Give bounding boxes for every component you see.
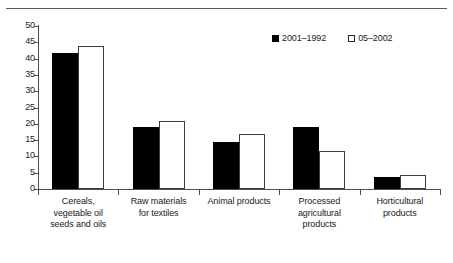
y-axis-tick-label: 50	[25, 20, 35, 31]
x-axis-tick-mark	[199, 190, 200, 195]
category-label-line: products	[354, 208, 446, 220]
category-label-line: Animal products	[193, 196, 285, 208]
category-label-line: Cereals,	[32, 196, 124, 208]
plot-area: 05101520253035404550	[38, 26, 440, 189]
x-axis-category-label: Horticulturalproducts	[354, 196, 446, 219]
bar	[78, 46, 104, 189]
bar	[133, 127, 159, 189]
bar	[293, 127, 319, 189]
category-label-line: for textiles	[112, 208, 204, 220]
legend-item-label: 2001–1992	[282, 33, 326, 44]
x-axis-tick-mark	[38, 190, 39, 195]
x-axis-tick-mark	[360, 190, 361, 195]
category-label-line: Horticultural	[354, 196, 446, 208]
bar	[374, 177, 400, 189]
y-axis-tick-label: 10	[25, 150, 35, 161]
category-label-line: Raw materials	[112, 196, 204, 208]
x-axis-tick-mark	[279, 190, 280, 195]
bar	[52, 53, 78, 189]
category-label-line: vegetable oil	[32, 208, 124, 220]
outlined-square-icon	[348, 35, 355, 42]
legend-item-label: 05–2002	[358, 33, 392, 44]
bar	[159, 121, 185, 189]
x-axis-line	[38, 189, 441, 190]
x-axis-tick-mark	[118, 190, 119, 195]
y-axis-tick-label: 20	[25, 118, 35, 129]
y-axis-tick-label: 15	[25, 134, 35, 145]
y-axis-tick-label: 25	[25, 102, 35, 113]
x-axis-tick-mark	[440, 190, 441, 195]
x-axis-category-label: Animal products	[193, 196, 285, 208]
y-axis-tick-label: 45	[25, 36, 35, 47]
header-divider	[6, 8, 447, 9]
x-axis-category-label: Raw materialsfor textiles	[112, 196, 204, 219]
filled-square-icon	[272, 35, 279, 42]
y-axis-tick-label: 30	[25, 85, 35, 96]
bar	[400, 175, 426, 189]
y-axis-tick-label: 40	[25, 53, 35, 64]
chart-legend: 2001–199205–2002	[272, 33, 393, 44]
bar	[319, 151, 345, 189]
y-axis-tick-label: 5	[30, 167, 35, 178]
y-axis-tick-label: 0	[30, 183, 35, 194]
x-axis-category-label: Processedagriculturalproducts	[273, 196, 365, 231]
chart-figure: 05101520253035404550 Cereals,vegetable o…	[0, 0, 453, 263]
legend-item: 2001–1992	[272, 33, 326, 44]
legend-item: 05–2002	[348, 33, 392, 44]
category-label-line: agricultural	[273, 208, 365, 220]
category-label-line: products	[273, 219, 365, 231]
category-label-line: Processed	[273, 196, 365, 208]
x-axis-category-label: Cereals,vegetable oilseeds and oils	[32, 196, 124, 231]
category-label-line: seeds and oils	[32, 219, 124, 231]
bar	[213, 142, 239, 189]
y-axis-tick-label: 35	[25, 69, 35, 80]
bar	[239, 134, 265, 189]
